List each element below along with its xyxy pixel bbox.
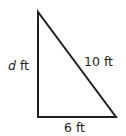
- variable-d: d: [8, 58, 16, 73]
- hypotenuse-label: 10 ft: [84, 54, 113, 69]
- triangle-diagram: d ft 10 ft 6 ft: [0, 0, 126, 136]
- base-label: 6 ft: [64, 120, 85, 135]
- vertical-side-unit: ft: [16, 58, 29, 73]
- vertical-side-label: d ft: [8, 58, 29, 73]
